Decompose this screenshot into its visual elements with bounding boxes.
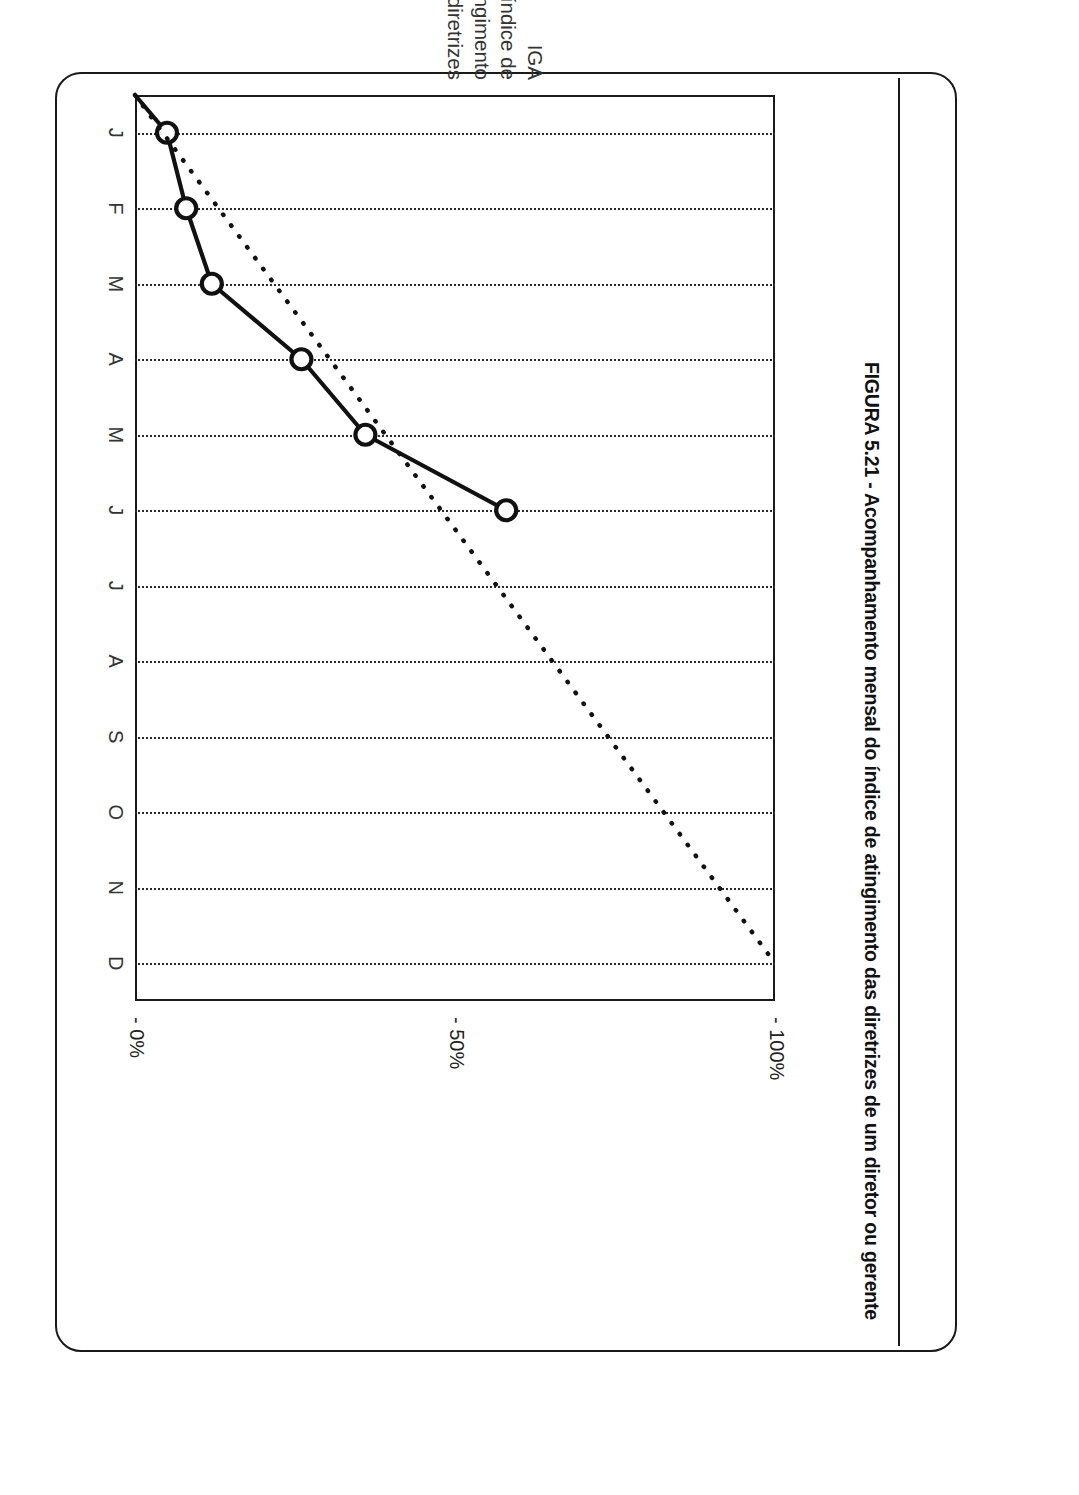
data-point-marker-A-3 [291,349,311,369]
y-axis-title-line-1: IGA [521,0,548,80]
y-axis-title: IGA índice de atingimento das diretrizes [441,0,548,80]
y-tick-0: - 0% [125,1017,148,1137]
data-point-marker-J-5 [496,500,516,520]
data-point-marker-F-1 [176,198,196,218]
data-point-marker-M-4 [355,425,375,445]
y-tick-100: - 100% [765,1017,788,1137]
y-axis-title-line-3: atingimento [468,0,495,80]
x-tick-4: M [104,415,127,455]
x-tick-9: O [104,792,127,832]
y-tick-50: - 50% [445,1017,468,1137]
y-axis-title-line-2: índice de [495,0,522,80]
chart-area: IGA índice de atingimento das diretrizes… [150,95,800,1360]
x-tick-10: N [104,868,127,908]
x-tick-0: J [104,113,127,153]
actual-series-line [135,95,506,510]
x-tick-11: D [104,943,127,983]
x-tick-6: J [104,566,127,606]
x-tick-2: M [104,264,127,304]
target-reference-line [135,95,775,963]
series-lines [135,95,775,1001]
data-point-marker-M-2 [202,274,222,294]
figure-caption: FIGURA 5.21 - Acompanhamento mensal do í… [844,78,900,1346]
x-tick-7: A [104,641,127,681]
x-tick-3: A [104,339,127,379]
x-tick-1: F [104,188,127,228]
x-tick-5: J [104,490,127,530]
x-tick-8: S [104,717,127,757]
plot-region: JFMAMJJASOND - 100%- 50%- 0% [135,95,775,1001]
y-axis-title-line-4: das diretrizes [441,0,468,80]
